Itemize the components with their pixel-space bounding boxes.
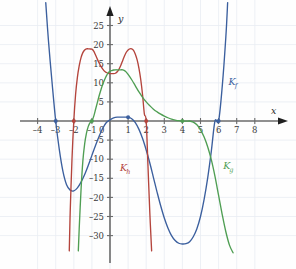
function-graph-figure: –4–3–2–1012345678–30–25–20–15–10–5510152… <box>0 0 296 269</box>
x-tick-label: 4 <box>180 125 185 135</box>
marked-point <box>126 115 130 119</box>
y-tick-label: –15 <box>89 173 104 183</box>
marked-point <box>72 119 76 123</box>
curve-label-subscript: h <box>126 168 130 176</box>
marked-point <box>90 119 94 123</box>
plot-background <box>0 0 296 269</box>
x-tick-label: 6 <box>216 125 221 135</box>
x-tick-label: 3 <box>162 125 167 135</box>
x-tick-label: 8 <box>252 125 257 135</box>
x-tick-label: 7 <box>234 125 239 135</box>
marked-point <box>217 119 221 123</box>
x-tick-label: 1 <box>125 125 130 135</box>
y-tick-label: 25 <box>93 21 104 31</box>
y-tick-label: –20 <box>89 193 104 203</box>
plot-canvas: –4–3–2–1012345678–30–25–20–15–10–5510152… <box>0 0 296 269</box>
curve-label-subscript: g <box>229 166 233 174</box>
y-tick-label: –30 <box>89 231 104 241</box>
y-tick-label: 5 <box>99 97 104 107</box>
marked-point <box>144 119 148 123</box>
x-tick-label: –4 <box>33 125 43 135</box>
y-tick-label: 20 <box>93 40 104 50</box>
y-tick-label: –25 <box>89 212 104 222</box>
marked-point <box>180 119 184 123</box>
x-axis-label: x <box>271 105 277 116</box>
y-axis-label: y <box>117 13 124 24</box>
marked-point <box>54 119 58 123</box>
